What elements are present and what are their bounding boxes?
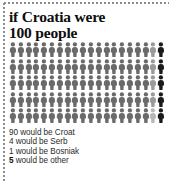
person-icon [32,75,40,90]
person-icon [126,92,134,107]
person-icon [142,92,150,107]
person-icon [87,42,95,57]
person-icon [118,59,126,74]
infographic-content: if Croatia were 100 people 90 would be C… [9,0,169,182]
person-icon [103,92,111,107]
person-icon [110,92,118,107]
legend-label: would be Serb [14,137,68,146]
legend-count: 90 [9,128,18,137]
person-icon [25,108,33,123]
person-icon [134,92,142,107]
person-icon [32,92,40,107]
person-icon [32,108,40,123]
person-icon [118,108,126,123]
person-icon [71,92,79,107]
person-icon [110,108,118,123]
person-icon [56,59,64,74]
chart-legend: 90 would be Croat4 would be Serb1 would … [9,128,159,166]
pictogram-grid [9,42,169,125]
person-icon [64,42,72,57]
person-icon [149,75,157,90]
person-icon [32,59,40,74]
person-icon [134,59,142,74]
person-icon [32,42,40,57]
person-icon [25,92,33,107]
person-icon [157,75,165,90]
person-icon [134,42,142,57]
person-icon [71,108,79,123]
page-title: if Croatia were 100 people [9,9,159,40]
pictogram-row [9,75,169,92]
person-icon [56,42,64,57]
person-icon [157,92,165,107]
person-icon [142,108,150,123]
legend-item: 1 would be Bosniak [9,147,159,156]
person-icon [87,92,95,107]
person-icon [95,59,103,74]
person-icon [25,59,33,74]
person-icon [56,75,64,90]
person-icon [40,108,48,123]
person-icon [17,108,25,123]
person-icon [87,108,95,123]
person-icon [40,42,48,57]
pictogram-row [9,108,169,125]
person-icon [149,108,157,123]
pictogram-infographic: if Croatia were 100 people 90 would be C… [0,0,169,182]
person-icon [87,59,95,74]
person-icon [126,75,134,90]
person-icon [17,42,25,57]
person-icon [40,92,48,107]
person-icon [25,42,33,57]
person-icon [87,75,95,90]
person-icon [48,75,56,90]
person-icon [79,42,87,57]
person-icon [9,75,17,90]
legend-label: would be Croat [18,128,75,137]
person-icon [157,108,165,123]
person-icon [110,59,118,74]
person-icon [110,42,118,57]
person-icon [56,92,64,107]
person-icon [110,75,118,90]
person-icon [149,59,157,74]
title-line-1: if Croatia were [9,9,159,25]
person-icon [142,75,150,90]
person-icon [79,75,87,90]
person-icon [64,75,72,90]
person-icon [134,75,142,90]
person-icon [118,92,126,107]
person-icon [134,108,142,123]
legend-item: 90 would be Croat [9,128,159,137]
pictogram-row [9,42,169,59]
person-icon [95,92,103,107]
person-icon [64,108,72,123]
pictogram-row [9,92,169,109]
person-icon [126,42,134,57]
person-icon [118,75,126,90]
person-icon [64,92,72,107]
person-icon [48,108,56,123]
person-icon [95,42,103,57]
person-icon [71,75,79,90]
person-icon [126,108,134,123]
person-icon [126,59,134,74]
person-icon [17,75,25,90]
person-icon [71,59,79,74]
person-icon [103,42,111,57]
person-icon [71,42,79,57]
person-icon [17,59,25,74]
legend-item: 4 would be Serb [9,137,159,146]
left-dotted-rule [3,2,5,182]
person-icon [103,59,111,74]
person-icon [95,75,103,90]
person-icon [48,92,56,107]
person-icon [103,108,111,123]
person-icon [149,92,157,107]
person-icon [157,42,165,57]
person-icon [25,75,33,90]
person-icon [56,108,64,123]
person-icon [79,92,87,107]
person-icon [157,59,165,74]
person-icon [79,108,87,123]
